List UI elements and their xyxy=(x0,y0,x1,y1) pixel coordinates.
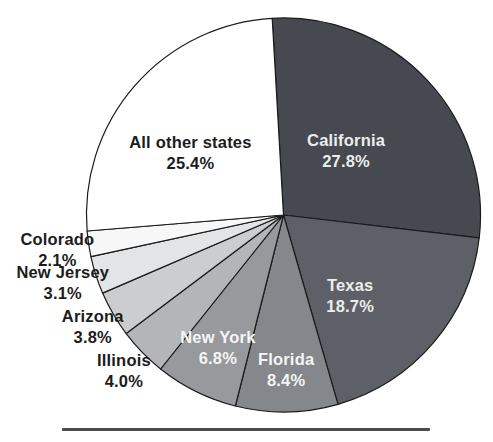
pie-chart: California27.8%Texas18.7%Florida8.4%New … xyxy=(0,0,493,442)
pie-label-new-york-name: New York xyxy=(180,328,256,346)
pie-label-illinois-value: 4.0% xyxy=(105,372,144,390)
pie-label-arizona-value: 3.8% xyxy=(74,328,113,346)
pie-label-california-name: California xyxy=(307,131,386,149)
pie-label-illinois-name: Illinois xyxy=(97,351,151,369)
pie-label-california-value: 27.8% xyxy=(322,152,370,170)
pie-label-colorado-name: Colorado xyxy=(20,230,94,248)
pie-label-florida-value: 8.4% xyxy=(267,371,306,389)
pie-label-new-jersey-value: 3.1% xyxy=(44,284,83,302)
pie-label-texas-value: 18.7% xyxy=(326,297,374,315)
pie-slice-california xyxy=(272,18,480,238)
pie-slice-all-other-states xyxy=(86,18,283,231)
pie-chart-figure: California27.8%Texas18.7%Florida8.4%New … xyxy=(0,0,493,442)
pie-label-new-york-value: 6.8% xyxy=(199,349,238,367)
pie-label-all-other-states-name: All other states xyxy=(129,133,251,151)
pie-label-arizona-name: Arizona xyxy=(62,307,125,325)
pie-label-all-other-states-value: 25.4% xyxy=(167,154,215,172)
pie-label-florida-name: Florida xyxy=(258,350,315,368)
pie-label-texas-name: Texas xyxy=(327,276,374,294)
bottom-rule-line xyxy=(62,428,430,431)
pie-label-colorado-value: 2.1% xyxy=(38,251,77,269)
